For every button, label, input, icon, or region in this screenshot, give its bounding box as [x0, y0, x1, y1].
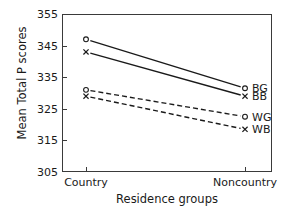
- y-axis-title: Mean Total P scores: [15, 13, 29, 153]
- y-tick-mark: [62, 140, 67, 141]
- y-tick-label: 305: [28, 166, 58, 179]
- chart-figure: 355 345 335 325 315 305 Country Noncount…: [0, 0, 292, 213]
- x-axis-title: Residence groups: [62, 192, 272, 206]
- y-tick-mark: [62, 46, 67, 47]
- legend-label-wg: WG: [252, 110, 271, 123]
- y-tick-label: 325: [28, 102, 58, 115]
- x-tick-mark: [86, 167, 87, 172]
- legend-label-bb: BB: [252, 90, 267, 103]
- x-tick-label-country: Country: [64, 176, 108, 189]
- y-tick-label: 315: [28, 134, 58, 147]
- y-tick-mark: [62, 109, 67, 110]
- x-tick-label-noncountry: Noncountry: [213, 176, 277, 189]
- y-tick-label: 355: [28, 8, 58, 21]
- x-tick-mark: [245, 167, 246, 172]
- y-tick-label: 345: [28, 39, 58, 52]
- y-axis-ticks: 355 345 335 325 315 305: [26, 0, 58, 213]
- plot-area: [62, 14, 272, 172]
- y-tick-mark: [62, 77, 67, 78]
- legend-label-wb: WB: [252, 123, 270, 136]
- y-tick-label: 335: [28, 71, 58, 84]
